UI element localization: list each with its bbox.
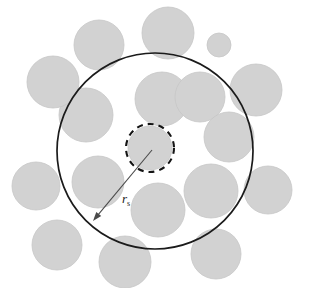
particle-disk (230, 64, 282, 116)
particle-disk (131, 183, 185, 237)
particle-disk (12, 162, 60, 210)
particle-disk (128, 126, 172, 170)
particle-disk (207, 33, 231, 57)
particle-disk (72, 156, 124, 208)
radius-subscript: s (127, 199, 130, 208)
figure-container: rs (0, 0, 316, 288)
particle-disk (74, 20, 124, 70)
particle-disk (32, 220, 82, 270)
particle-disk (191, 229, 241, 279)
particle-disk (204, 112, 254, 162)
particle-disk (142, 7, 194, 59)
wigner-seitz-diagram: rs (0, 0, 316, 288)
particle-disk (184, 164, 238, 218)
